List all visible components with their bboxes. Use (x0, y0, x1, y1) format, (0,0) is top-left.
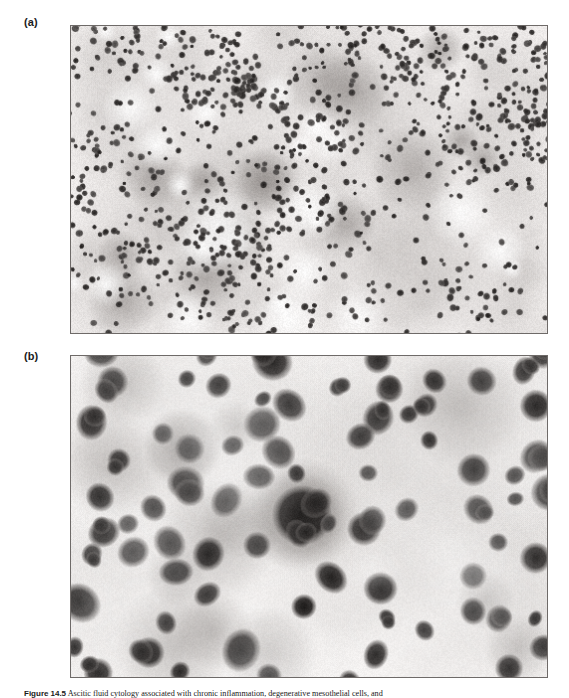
micrograph-image-b (71, 356, 547, 677)
panel-label-b: (b) (24, 351, 38, 362)
caption-text: Ascitic fluid cytology associated with c… (68, 689, 383, 698)
caption-prefix: Figure (24, 689, 48, 698)
figure-container: (a) (b) Figure 14.5 Ascitic fluid cytolo… (0, 0, 569, 698)
caption-number: 14.5 (51, 689, 67, 698)
micrograph-image-a (71, 26, 547, 333)
micrograph-panel-b (70, 355, 548, 678)
micrograph-panel-a (70, 25, 548, 334)
panel-label-a: (a) (24, 17, 38, 28)
figure-caption: Figure 14.5 Ascitic fluid cytology assoc… (24, 688, 548, 698)
